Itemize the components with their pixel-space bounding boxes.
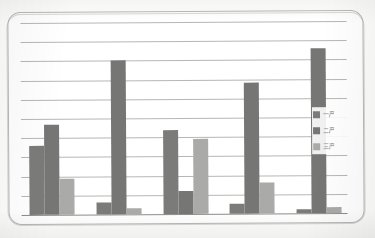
- bar: [297, 209, 312, 213]
- legend-swatch: [313, 143, 320, 150]
- bar: [96, 203, 111, 215]
- bar: [244, 83, 260, 214]
- scanned-page: 一产二产三产: [0, 0, 375, 238]
- chart-legend: 一产二产三产: [312, 107, 358, 154]
- bar: [178, 191, 193, 214]
- legend-label: 一产: [323, 111, 334, 118]
- bar-group: [95, 22, 141, 214]
- bar-group: [162, 22, 208, 214]
- legend-swatch: [313, 127, 320, 134]
- legend-item: 三产: [313, 141, 357, 152]
- bar: [126, 209, 141, 215]
- bar-groups: [20, 21, 347, 215]
- bar-group: [229, 21, 275, 213]
- legend-item: 一产: [313, 109, 357, 120]
- bar: [44, 125, 60, 215]
- legend-label: 三产: [323, 143, 334, 150]
- bar: [260, 183, 275, 214]
- bar: [163, 130, 179, 215]
- legend-label: 二产: [323, 127, 334, 134]
- bar: [110, 61, 126, 215]
- bar: [193, 139, 208, 214]
- legend-swatch: [313, 111, 320, 118]
- bar: [29, 146, 44, 215]
- bar: [327, 207, 342, 213]
- bar-group: [28, 23, 74, 215]
- chart-frame: 一产二产三产: [7, 10, 364, 225]
- bar: [230, 204, 245, 214]
- bar: [59, 178, 74, 215]
- plot-area: [20, 21, 347, 215]
- legend-item: 二产: [313, 125, 357, 136]
